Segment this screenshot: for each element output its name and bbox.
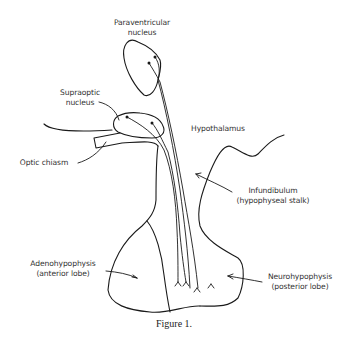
label-infundibulum: Infundibulum (hypophyseal stalk) bbox=[232, 186, 314, 206]
label-hypothalamus: Hypothalamus bbox=[188, 124, 248, 134]
label-line: Supraoptic bbox=[52, 88, 108, 98]
label-supraoptic-nucleus: Supraoptic nucleus bbox=[52, 88, 108, 108]
label-line: Adenohypophysis bbox=[26, 259, 100, 269]
son-axon-2 bbox=[152, 123, 186, 282]
label-line: Neurohypophysis bbox=[262, 272, 338, 282]
label-paraventricular-nucleus: Paraventricular nucleus bbox=[106, 18, 178, 38]
label-line: Optic chiasm bbox=[14, 158, 74, 168]
pointer-infundibulum bbox=[196, 174, 232, 192]
paraventricular-nucleus-shape bbox=[124, 40, 161, 95]
label-line: Hypothalamus bbox=[188, 124, 248, 134]
stalk-left-contour bbox=[108, 146, 200, 312]
label-optic-chiasm: Optic chiasm bbox=[14, 158, 74, 168]
lobe-divider bbox=[147, 221, 170, 312]
label-line: (hypophyseal stalk) bbox=[232, 196, 314, 206]
label-line: (anterior lobe) bbox=[26, 269, 100, 279]
hypothalamus-floor-line bbox=[44, 124, 112, 131]
axon-terminal-3 bbox=[194, 288, 200, 292]
label-line: nucleus bbox=[106, 28, 178, 38]
axon-terminal-1 bbox=[175, 282, 181, 286]
axon-terminal-4 bbox=[208, 284, 214, 288]
axon-terminal-2 bbox=[183, 282, 189, 286]
label-line: Paraventricular bbox=[106, 18, 178, 28]
label-line: nucleus bbox=[52, 98, 108, 108]
label-neurohypophysis: Neurohypophysis (posterior lobe) bbox=[262, 272, 338, 292]
figure-caption: Figure 1. bbox=[156, 318, 192, 329]
pointer-optic-chiasm bbox=[78, 142, 106, 163]
label-adenohypophysis: Adenohypophysis (anterior lobe) bbox=[26, 259, 100, 279]
label-line: Infundibulum bbox=[232, 186, 314, 196]
supraoptic-nucleus-shape bbox=[114, 113, 164, 138]
label-line: (posterior lobe) bbox=[262, 282, 338, 292]
